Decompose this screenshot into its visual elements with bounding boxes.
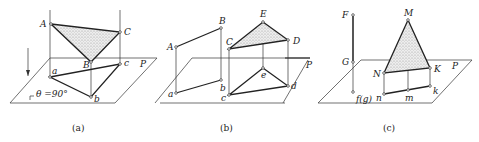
svg-text:E: E [259, 9, 267, 19]
svg-text:c: c [221, 93, 226, 103]
svg-text:A: A [39, 19, 47, 29]
svg-text:N: N [372, 69, 382, 79]
svg-text:P: P [451, 61, 459, 71]
svg-text:F: F [341, 10, 349, 20]
svg-text:C: C [226, 37, 233, 47]
panel-c: FGf(g) MNK nmk P (c) [318, 8, 472, 133]
svg-text:a: a [168, 89, 173, 99]
svg-text:θ =90°: θ =90° [36, 89, 68, 99]
triangle-abc [51, 24, 120, 62]
svg-text:m: m [405, 93, 414, 103]
svg-text:M: M [403, 8, 414, 18]
svg-text:D: D [292, 36, 300, 46]
svg-text:f(g): f(g) [355, 94, 373, 104]
panel-b: AB ab EDC edc P (b) [155, 9, 313, 133]
svg-text:B: B [218, 16, 226, 26]
svg-text:G: G [342, 57, 349, 67]
svg-text:P: P [139, 59, 147, 69]
svg-text:C: C [124, 27, 131, 37]
svg-text:B: B [82, 60, 90, 70]
svg-text:d: d [291, 81, 297, 91]
svg-text:n: n [376, 93, 382, 103]
svg-text:k: k [433, 86, 438, 96]
svg-text:a: a [52, 66, 57, 76]
arrow-down-icon [26, 70, 30, 76]
svg-text:c: c [124, 58, 129, 68]
svg-text:P: P [305, 60, 313, 70]
svg-text:b: b [220, 83, 226, 93]
svg-text:(b): (b) [220, 123, 233, 133]
projection-diagram: ACB acb P θ =90° (a) AB ab EDC edc P (b) [0, 0, 479, 142]
svg-text:K: K [433, 64, 442, 74]
svg-text:b: b [94, 94, 100, 104]
panel-a: ACB acb P θ =90° (a) [10, 10, 157, 133]
svg-text:A: A [166, 42, 174, 52]
svg-text:(c): (c) [383, 123, 395, 133]
svg-text:(a): (a) [72, 123, 84, 133]
svg-text:e: e [261, 70, 266, 80]
